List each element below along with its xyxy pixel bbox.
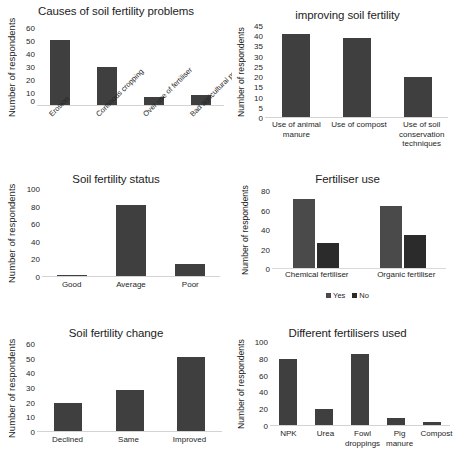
y-axis-ticks-improving: 0 5 10 15 20 25 30 35 40 45	[248, 26, 265, 118]
x-label: Use of animal manure	[265, 120, 328, 149]
y-tick: 20	[26, 398, 35, 407]
plot-area-improving: Number of respondents 0 5 10 15 20 25 30…	[234, 26, 456, 118]
x-axis-labels-change: Declined Same Improved	[37, 435, 220, 445]
bar-urea	[315, 409, 333, 425]
bar-organic-no	[404, 235, 426, 268]
bar-chemical-no	[317, 243, 339, 268]
bar-organic-yes	[380, 206, 402, 268]
y-tick: 35	[254, 42, 263, 51]
legend-swatch-icon	[326, 293, 331, 298]
plot-area-change: Number of respondents 0 10 20 30 40 50 6…	[4, 344, 230, 432]
bar-slot	[42, 189, 101, 276]
bar-slot	[37, 28, 84, 105]
legend-label: Yes	[333, 291, 345, 300]
x-label: Use of compost	[328, 120, 391, 149]
y-tick: 0	[31, 97, 35, 106]
y-tick: 25	[254, 62, 263, 71]
legend-item-no: No	[352, 291, 369, 300]
bar-slot	[270, 342, 306, 425]
bars-region-change	[37, 344, 222, 432]
x-axis-labels-causes: Erosion Continous cropping Over use of f…	[0, 108, 232, 160]
y-axis-label-different-fertilisers: Number of respondents	[234, 342, 248, 426]
x-label: Poor	[161, 280, 220, 290]
x-label: Chemical fertiliser	[272, 270, 362, 280]
y-tick: 40	[31, 237, 40, 246]
bar-use-of-animal-manure	[282, 34, 310, 117]
y-axis-label-improving: Number of respondents	[234, 26, 248, 118]
y-tick: 80	[261, 187, 270, 196]
y-tick: 60	[261, 206, 270, 215]
bars-region-status	[42, 189, 220, 277]
y-axis-ticks-status: 0 20 40 60 80 100	[18, 189, 42, 277]
chart-title-fertiliser-use: Fertiliser use	[232, 165, 463, 186]
y-tick: 100	[27, 185, 40, 194]
y-tick: 30	[26, 63, 35, 72]
legend-label: No	[359, 291, 369, 300]
y-tick: 20	[261, 245, 270, 254]
bar-fowl-droppings	[351, 354, 369, 425]
y-tick: 60	[26, 24, 35, 33]
bar-slot	[161, 189, 220, 276]
bar-use-of-soil-conservation-techniques	[404, 77, 432, 117]
plot-area-fertiliser-use: Number of respondents 0 20 40 60 80	[238, 191, 456, 269]
chart-panel-improving: improving soil fertility Number of respo…	[232, 0, 463, 165]
y-tick: 10	[254, 93, 263, 102]
chart-panel-status: Soil fertility status Number of responde…	[0, 165, 232, 320]
chart-panel-fertiliser-use: Fertiliser use Number of respondents 0 2…	[232, 165, 463, 320]
x-label: Use of soil conservation techniques	[390, 120, 453, 149]
y-tick: 40	[26, 369, 35, 378]
bar-slot	[306, 342, 342, 425]
x-label: Declined	[37, 435, 98, 445]
y-tick: 40	[259, 388, 268, 397]
bar-erosion	[50, 40, 70, 105]
y-tick: 0	[31, 428, 35, 437]
x-label: NPK	[270, 429, 307, 448]
bar-chemical-yes	[293, 199, 315, 268]
bar-slot	[378, 342, 414, 425]
x-label: Average	[101, 280, 160, 290]
x-axis-labels-different-fertilisers: NPK Urea Fowl droppings Pig manure Compo…	[270, 429, 455, 448]
y-axis-label-causes: Number of respondents	[4, 28, 18, 106]
y-tick: 40	[261, 226, 270, 235]
y-tick: 0	[264, 422, 268, 431]
x-label: Same	[98, 435, 159, 445]
x-axis-labels-improving: Use of animal manure Use of compost Use …	[265, 120, 453, 149]
legend-item-yes: Yes	[326, 291, 345, 300]
figure-grid: Causes of soil fertility problems Number…	[0, 0, 463, 473]
bars-region-different-fertilisers	[270, 342, 450, 426]
x-label: Good	[42, 280, 101, 290]
y-axis-ticks-change: 0 10 20 30 40 50 60	[18, 344, 37, 432]
chart-title-causes: Causes of soil fertility problems	[0, 0, 232, 18]
x-label: Fowl droppings	[344, 429, 381, 448]
chart-panel-different-fertilisers: Different fertilisers used Number of res…	[232, 320, 463, 473]
x-label: Pig manure	[381, 429, 418, 448]
y-tick: 0	[266, 265, 270, 274]
y-tick: 60	[26, 340, 35, 349]
y-tick: 20	[259, 405, 268, 414]
chart-title-improving: improving soil fertility	[232, 0, 463, 22]
y-tick: 30	[26, 384, 35, 393]
chart-title-status: Soil fertility status	[0, 165, 232, 186]
x-label: Urea	[307, 429, 344, 448]
x-axis-labels-status: Good Average Poor	[42, 280, 220, 290]
y-tick: 40	[254, 32, 263, 41]
y-tick: 0	[36, 273, 40, 282]
y-tick: 80	[259, 354, 268, 363]
y-tick: 20	[254, 73, 263, 82]
y-tick: 45	[254, 22, 263, 31]
plot-area-status: Number of respondents 0 20 40 60 80 100	[4, 189, 228, 277]
y-tick: 5	[259, 103, 263, 112]
bar-group-chemical	[272, 191, 359, 268]
y-tick: 60	[259, 371, 268, 380]
y-tick: 100	[255, 338, 268, 347]
y-tick: 10	[26, 88, 35, 97]
bar-slot	[387, 26, 448, 117]
bar-poor	[175, 264, 205, 276]
chart-panel-change: Soil fertility change Number of responde…	[0, 320, 232, 473]
bar-slot	[101, 189, 160, 276]
bar-slot	[265, 26, 326, 117]
x-label: Organic fertiliser	[362, 270, 452, 280]
y-axis-label-fertiliser-use: Number of respondents	[238, 191, 252, 269]
bar-slot	[342, 342, 378, 425]
y-axis-ticks-fertiliser-use: 0 20 40 60 80	[252, 191, 272, 269]
